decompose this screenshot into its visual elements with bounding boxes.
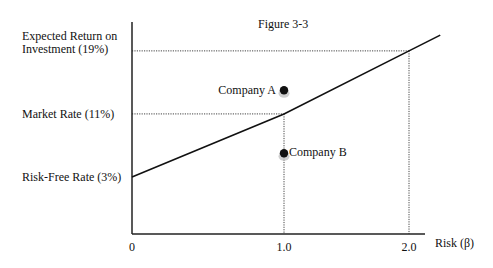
points-group: Company ACompany B bbox=[218, 83, 346, 161]
x-axis-label: Risk (β) bbox=[435, 236, 474, 250]
chart-title: Figure 3-3 bbox=[258, 17, 308, 31]
y-level-labels: Expected Return onInvestment (19%)Market… bbox=[22, 29, 121, 184]
reference-lines bbox=[132, 51, 409, 234]
point-label: Company A bbox=[218, 83, 276, 97]
y-level-label: Risk-Free Rate (3%) bbox=[22, 170, 121, 184]
x-tick-label: 2.0 bbox=[402, 240, 417, 254]
y-level-label: Market Rate (11%) bbox=[22, 107, 114, 121]
y-level-label: Expected Return on bbox=[22, 29, 117, 43]
data-point bbox=[280, 86, 288, 94]
x-tick-label: 0 bbox=[129, 240, 135, 254]
point-label: Company B bbox=[289, 145, 347, 159]
x-tick-labels: 01.02.0 bbox=[129, 240, 417, 254]
y-level-label: Investment (19%) bbox=[22, 42, 108, 56]
x-tick-label: 1.0 bbox=[277, 240, 292, 254]
data-point bbox=[280, 149, 288, 157]
chart: Figure 3-3 Expected Return onInvestment … bbox=[0, 0, 493, 268]
